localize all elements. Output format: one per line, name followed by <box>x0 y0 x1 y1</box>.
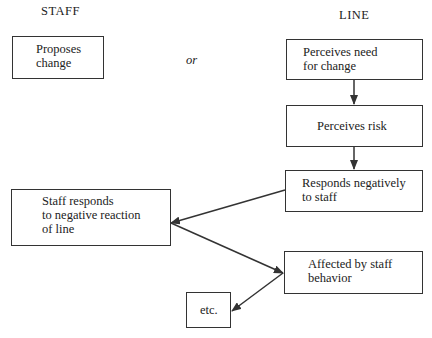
node-label: Perceives need for change <box>303 45 378 73</box>
node-staff-responds: Staff responds to negative reaction of l… <box>11 189 171 246</box>
node-affected-by-staff: Affected by staff behavior <box>284 251 423 294</box>
or-connector-text: or <box>186 53 197 68</box>
node-label: Affected by staff behavior <box>308 257 392 285</box>
node-label: Responds negatively to staff <box>302 176 406 204</box>
node-responds-negatively: Responds negatively to staff <box>285 170 423 212</box>
node-label: Staff responds to negative reaction of l… <box>42 194 141 236</box>
node-perceives-need: Perceives need for change <box>286 39 423 80</box>
arrow-responds-to-staff <box>171 190 285 223</box>
node-perceives-risk: Perceives risk <box>286 105 423 147</box>
node-label: Proposes change <box>36 42 81 70</box>
arrow-staff-to-affected <box>171 223 283 273</box>
staff-column-header: STAFF <box>41 4 80 19</box>
node-etc: etc. <box>186 292 231 328</box>
arrow-affected-to-etc <box>232 273 283 311</box>
node-label: etc. <box>200 303 218 317</box>
node-proposes-change: Proposes change <box>12 36 104 79</box>
line-column-header: LINE <box>339 8 369 23</box>
node-label: Perceives risk <box>317 119 387 133</box>
